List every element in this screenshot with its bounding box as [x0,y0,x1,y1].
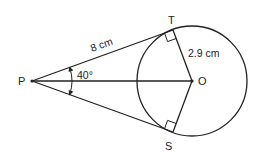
point-p-dot [30,79,33,82]
tangent-ps [32,81,173,132]
label-ot-length: 2.9 cm [188,47,220,59]
label-angle: 40° [77,69,93,81]
radius-os [173,81,192,132]
label-o: O [198,75,207,87]
label-p: P [18,75,25,87]
label-pt-length: 8 cm [89,35,115,54]
label-t: T [168,14,175,26]
label-s: S [165,140,172,152]
point-o-dot [190,79,193,82]
tangent-circle-diagram: P O T S 8 cm 2.9 cm 40° [0,0,262,163]
